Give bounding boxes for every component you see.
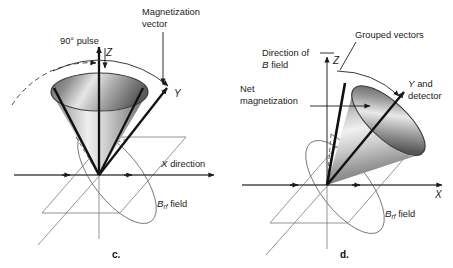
panel-c: Z Y 90° pulse Magnetization vector X dir…: [12, 7, 214, 260]
panel-d: X Z Direction of B field Net magnetizati…: [240, 30, 442, 260]
panel-c-z-label: Z: [105, 47, 113, 58]
panel-c-brf-label: Brf field: [157, 198, 187, 210]
panel-d-z-label: Z: [332, 55, 340, 66]
panel-d-brf-label: Brf field: [385, 208, 415, 220]
panel-d-grouped-leader: [340, 42, 356, 70]
panel-c-x-direction-label: X direction: [160, 158, 205, 169]
panel-c-magnetization-label-line1: Magnetization: [142, 7, 200, 17]
panel-d-direction-label-line1: Direction of: [262, 48, 309, 58]
panel-c-y-label: Y: [174, 88, 182, 99]
panel-d-y-axis-back: [266, 185, 328, 255]
panel-d-x-label: X: [434, 189, 442, 200]
panel-c-magnetization-label-line2: vector: [142, 19, 167, 29]
panel-d-direction-label-line2: B field: [262, 59, 288, 70]
panel-c-y-axis-back: [38, 175, 100, 245]
figure-canvas: Z Y 90° pulse Magnetization vector X dir…: [0, 0, 453, 268]
panel-d-grouped-label: Grouped vectors: [355, 30, 424, 40]
panel-c-pulse-label: 90° pulse: [60, 36, 99, 46]
panel-d-letter: d.: [340, 249, 349, 260]
panel-c-letter: c.: [112, 249, 121, 260]
panel-d-net-label-line2: magnetization: [240, 96, 298, 106]
panel-d-y-detector-line1: Y and: [408, 78, 433, 89]
panel-d-net-label-line1: Net: [240, 84, 255, 94]
nmr-diagram-svg: Z Y 90° pulse Magnetization vector X dir…: [0, 0, 453, 268]
panel-d-y-detector-line2: detector: [408, 91, 442, 101]
